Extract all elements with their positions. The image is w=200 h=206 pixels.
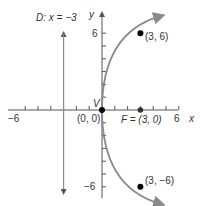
y-tick-label-neg6: −6 xyxy=(84,181,96,192)
y-axis-label: y xyxy=(88,9,95,20)
y-tick-label-6: 6 xyxy=(92,28,98,39)
point-3-neg6-label: (3, −6) xyxy=(145,175,174,186)
x-tick-label-6: 6 xyxy=(174,113,180,124)
point-3-6-label: (3, 6) xyxy=(145,31,168,42)
vertex-coord-label: (0, 0) xyxy=(77,113,100,124)
focus-label: F = (3, 0) xyxy=(121,114,162,125)
vertex-label: V xyxy=(93,98,101,109)
point-3-6 xyxy=(137,30,143,36)
x-axis-label: x xyxy=(188,113,195,124)
directrix-label: D: x = −3 xyxy=(36,12,77,23)
x-tick-label-neg6: −6 xyxy=(8,113,20,124)
focus-point xyxy=(138,107,144,113)
parabola-graph: D: x = −3 y 6 −6 −6 6 x V (0, 0) F = (3,… xyxy=(0,0,200,206)
point-3-neg6 xyxy=(137,184,143,190)
